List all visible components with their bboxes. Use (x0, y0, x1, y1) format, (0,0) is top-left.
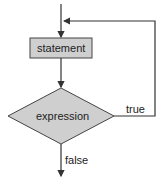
statement-label: statement (37, 43, 85, 54)
expression-label: expression (36, 111, 89, 122)
false-label: false (65, 155, 88, 166)
true-label: true (126, 104, 145, 115)
